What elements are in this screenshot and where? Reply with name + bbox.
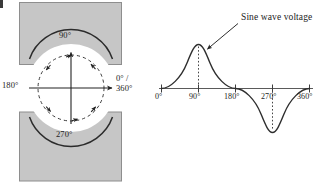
waveform-tick-label-360: 360°: [297, 93, 313, 101]
waveform-tick-label-0: 0°: [155, 93, 162, 101]
waveform-tick-label-270: 270°: [261, 93, 277, 101]
waveform-tick-label-90: 90°: [189, 93, 201, 101]
sine-wave-voltage-annotation: Sine wave voltage: [241, 13, 312, 23]
angle-label-90: 90°: [59, 31, 71, 40]
angle-label-270: 270°: [56, 130, 73, 139]
angle-label-0-360: 0° / 360°: [116, 74, 133, 93]
angle-label-360: 360°: [116, 84, 133, 94]
angle-label-180: 180°: [2, 81, 19, 90]
annotation-leader-arrow: [208, 24, 239, 50]
sine-wave-figure: 90° 180° 270° 0° / 360° Sine wave voltag…: [0, 0, 320, 191]
rotation-arrow-lower-left: [46, 107, 50, 112]
waveform-tick-label-180: 180°: [224, 93, 240, 101]
corner-tick-mark: [0, 0, 3, 8]
rotation-arrow-upper-left: [46, 65, 50, 70]
